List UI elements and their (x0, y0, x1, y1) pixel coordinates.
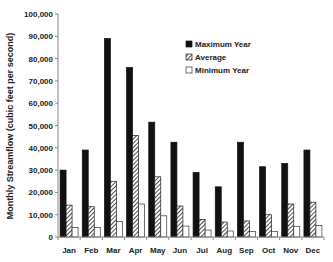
y-tick-label: 30,000 (29, 166, 54, 175)
bar-average (66, 205, 72, 237)
x-axis: JanFebMarAprMayJunJulAugSepOctNovDec (58, 237, 324, 255)
bar-maximum-year (304, 150, 310, 237)
y-tick-label: 0 (49, 233, 54, 242)
legend-swatch-icon (186, 54, 192, 60)
x-category-label: Dec (306, 246, 321, 255)
y-tick-label: 50,000 (29, 122, 54, 131)
bar-average (110, 181, 116, 237)
bar-average (310, 202, 316, 237)
bar-average (266, 215, 272, 237)
x-category-label: Feb (84, 246, 98, 255)
x-category-label: Jul (196, 246, 208, 255)
bar-maximum-year (215, 187, 221, 237)
bar-average (199, 219, 205, 237)
x-category-label: Nov (283, 246, 299, 255)
bar-minimum-year (227, 231, 233, 237)
bar-maximum-year (127, 68, 133, 237)
bar-average (243, 221, 249, 237)
y-tick-label: 60,000 (29, 99, 54, 108)
x-category-label: Apr (129, 246, 143, 255)
bar-average (221, 222, 227, 237)
bar-minimum-year (249, 232, 255, 237)
x-category-label: Oct (262, 246, 276, 255)
bar-average (288, 204, 294, 237)
bar-average (88, 207, 94, 237)
bar-maximum-year (104, 39, 110, 237)
y-tick-label: 70,000 (29, 77, 54, 86)
legend-label: Average (195, 53, 227, 62)
streamflow-bar-chart: 010,00020,00030,00040,00050,00060,00070,… (0, 0, 333, 262)
x-category-label: Mar (106, 246, 120, 255)
bar-minimum-year (116, 222, 122, 237)
legend-label: Minimum Year (195, 66, 249, 75)
bar-average (155, 177, 161, 237)
y-tick-label: 20,000 (29, 188, 54, 197)
bar-minimum-year (294, 226, 300, 237)
bar-minimum-year (272, 232, 278, 237)
bar-maximum-year (60, 170, 66, 237)
legend: Maximum YearAverageMinimum Year (186, 40, 251, 75)
legend-label: Maximum Year (195, 40, 251, 49)
bar-maximum-year (260, 167, 266, 237)
bar-minimum-year (316, 225, 322, 237)
x-category-label: Sep (239, 246, 254, 255)
x-category-label: Jun (173, 246, 187, 255)
bar-maximum-year (237, 142, 243, 237)
bar-minimum-year (72, 228, 78, 237)
y-tick-label: 100,000 (24, 10, 53, 19)
x-category-label: Jan (62, 246, 76, 255)
bar-average (177, 206, 183, 237)
bar-minimum-year (205, 230, 211, 237)
legend-swatch-icon (186, 41, 192, 47)
bar-maximum-year (171, 142, 177, 237)
bar-maximum-year (282, 163, 288, 237)
bar-minimum-year (94, 227, 100, 237)
bar-average (133, 136, 139, 237)
bar-maximum-year (193, 172, 199, 237)
y-tick-label: 80,000 (29, 55, 54, 64)
legend-swatch-icon (186, 67, 192, 73)
x-category-label: Aug (216, 246, 232, 255)
bar-maximum-year (82, 150, 88, 237)
y-axis: 010,00020,00030,00040,00050,00060,00070,… (24, 10, 58, 242)
bar-maximum-year (149, 122, 155, 237)
y-tick-label: 90,000 (29, 32, 54, 41)
y-axis-label: Monthly Streamflow (cubic feet per secon… (5, 33, 15, 220)
bar-minimum-year (161, 216, 167, 237)
bar-minimum-year (183, 226, 189, 237)
bar-minimum-year (139, 204, 145, 237)
x-category-label: May (150, 246, 166, 255)
y-tick-label: 10,000 (29, 211, 54, 220)
y-tick-label: 40,000 (29, 144, 54, 153)
